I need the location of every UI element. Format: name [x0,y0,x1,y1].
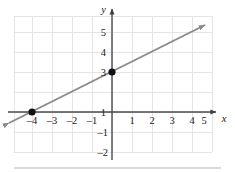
x-axis-label: x [221,113,227,124]
point-x-intercept [28,108,35,115]
y-tick-5: 5 [101,27,106,38]
coordinate-plane: 5 4 3 1 –1 –2 –4 –3 –2 –1 1 2 3 4 5 y x [0,0,235,172]
x-axis-tick-labels: –4 –3 –2 –1 1 2 3 4 5 [26,115,207,126]
x-tick-neg4: –4 [26,115,38,126]
y-tick-4: 4 [101,47,107,58]
x-tick-4: 4 [189,115,195,126]
y-tick-1: 1 [101,107,106,118]
x-tick-neg2: –2 [66,115,78,126]
plotted-line [9,25,205,123]
x-tick-2: 2 [149,115,154,126]
graph-figure: 5 4 3 1 –1 –2 –4 –3 –2 –1 1 2 3 4 5 y x [0,0,235,172]
x-tick-1: 1 [129,115,134,126]
point-y-intercept [108,68,115,75]
y-tick-3: 3 [101,67,106,78]
y-axis-label: y [100,4,106,15]
x-tick-neg1: –1 [86,115,98,126]
y-tick-neg2: –2 [97,147,109,158]
x-tick-3: 3 [169,115,174,126]
y-tick-neg1: –1 [97,127,109,138]
x-tick-neg3: –3 [46,115,58,126]
x-tick-5: 5 [201,115,206,126]
